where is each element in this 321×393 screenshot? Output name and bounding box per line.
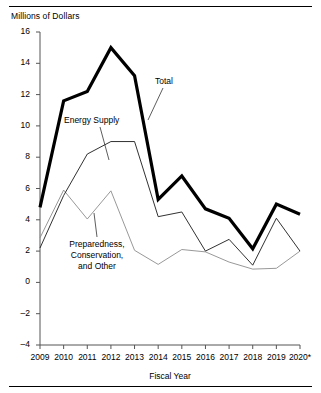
- chart-plot-area: [0, 0, 321, 393]
- x-axis-title: Fiscal Year: [149, 371, 191, 381]
- y-tick-label: 0: [12, 276, 30, 286]
- y-tick-label: 8: [12, 151, 30, 161]
- annotation-preparedness-line3: and Other: [69, 261, 124, 272]
- annotation-preparedness-line1: Preparedness,: [69, 239, 124, 250]
- x-tick-label: 2012: [101, 352, 120, 362]
- x-tick-label: 2010: [54, 352, 73, 362]
- y-tick-label: 16: [12, 26, 30, 36]
- x-tick-label: 2013: [125, 352, 144, 362]
- bottom-rule: [9, 386, 312, 387]
- x-tick-label: 2015: [172, 352, 191, 362]
- chart-svg: [0, 0, 321, 393]
- x-tick-label: 2017: [220, 352, 239, 362]
- x-tick-label: 2014: [149, 352, 168, 362]
- annotation-total: Total: [155, 76, 173, 87]
- y-tick-label: 14: [12, 57, 30, 67]
- leader-line-total: [148, 88, 163, 120]
- x-tick-label: 2020*: [289, 352, 311, 362]
- x-tick-label: 2016: [196, 352, 215, 362]
- y-tick-label: 6: [12, 183, 30, 193]
- leader-line-preparedness: [94, 213, 97, 237]
- annotation-energy-supply: Energy Supply: [64, 115, 119, 126]
- x-tick-label: 2018: [243, 352, 262, 362]
- y-tick-label: –2: [12, 308, 30, 318]
- y-tick-label: 4: [12, 214, 30, 224]
- x-tick-label: 2011: [78, 352, 96, 362]
- y-tick-label: –4: [12, 339, 30, 349]
- x-tick-label: 2009: [31, 352, 50, 362]
- y-tick-label: 10: [12, 120, 30, 130]
- figure-container: Millions of Dollars 1614121086420–2–4 20…: [0, 0, 321, 393]
- annotation-preparedness: Preparedness, Conservation, and Other: [69, 239, 124, 272]
- y-tick-label: 2: [12, 245, 30, 255]
- y-tick-label: 12: [12, 89, 30, 99]
- x-tick-label: 2019: [267, 352, 286, 362]
- annotation-preparedness-line2: Conservation,: [69, 250, 124, 261]
